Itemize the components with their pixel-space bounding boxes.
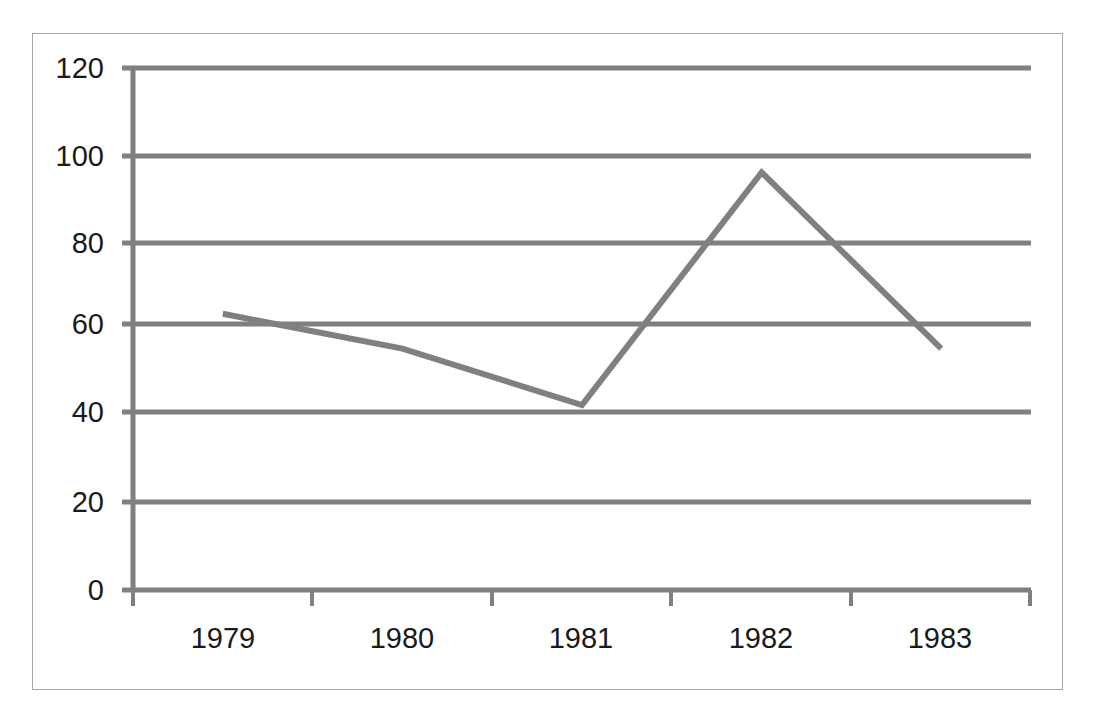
x-tick-label-1980: 1980 — [322, 624, 482, 653]
x-tick-label-1979: 1979 — [143, 624, 303, 653]
x-tick-label-1982: 1982 — [681, 624, 841, 653]
gridlines — [133, 68, 1031, 502]
chart-page: 120 100 80 60 40 20 0 1979 1980 1981 198… — [0, 0, 1094, 724]
y-tick-label-40: 40 — [24, 398, 104, 427]
x-tick-label-1983: 1983 — [860, 624, 1020, 653]
y-tick-label-60: 60 — [24, 310, 104, 339]
y-tick-label-0: 0 — [24, 576, 104, 605]
line-chart — [0, 0, 1094, 724]
x-tick-label-1981: 1981 — [501, 624, 661, 653]
y-tick-label-80: 80 — [24, 229, 104, 258]
y-tick-label-120: 120 — [24, 54, 104, 83]
y-tick-label-20: 20 — [24, 488, 104, 517]
data-line-series-1 — [223, 172, 941, 405]
y-tick-label-100: 100 — [24, 142, 104, 171]
